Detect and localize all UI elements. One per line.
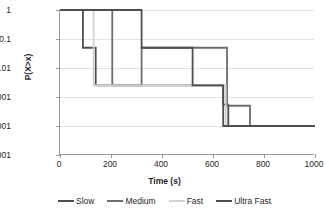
legend-swatch-icon bbox=[216, 200, 232, 203]
x-axis-tick-label: 800 bbox=[243, 160, 283, 169]
legend-item-medium[interactable]: Medium bbox=[107, 196, 155, 206]
legend-swatch-icon bbox=[107, 200, 123, 203]
x-axis-tick-label: 200 bbox=[90, 160, 130, 169]
y-axis-tick-label: 0.0001 bbox=[0, 122, 11, 131]
y-axis-tick-label: 0.1 bbox=[0, 35, 11, 44]
series-line-fast bbox=[60, 10, 315, 126]
y-axis-title: P(X>x) bbox=[23, 37, 33, 97]
y-axis-tick-label: 0.01 bbox=[0, 64, 11, 73]
legend-item-fast[interactable]: Fast bbox=[169, 196, 204, 206]
series-line-ultra-fast bbox=[60, 10, 315, 126]
legend-swatch-icon bbox=[58, 200, 74, 203]
chart-legend: SlowMediumFastUltra Fast bbox=[0, 196, 329, 206]
legend-label: Fast bbox=[187, 196, 204, 206]
x-axis-tick-label: 1000 bbox=[294, 160, 329, 169]
y-axis-tick-label: 0.00001 bbox=[0, 151, 11, 160]
x-axis-tick-label: 400 bbox=[141, 160, 181, 169]
x-axis-tick-label: 600 bbox=[192, 160, 232, 169]
legend-label: Medium bbox=[125, 196, 155, 206]
plot-area bbox=[59, 10, 314, 155]
legend-item-ultra-fast[interactable]: Ultra Fast bbox=[216, 196, 271, 206]
series-line-medium bbox=[60, 10, 315, 126]
x-axis-title: Time (s) bbox=[0, 176, 329, 186]
legend-label: Ultra Fast bbox=[234, 196, 271, 206]
series-line-slow bbox=[60, 10, 315, 126]
legend-label: Slow bbox=[76, 196, 94, 206]
x-axis-tick bbox=[315, 154, 316, 158]
y-axis-tick-label: 0.001 bbox=[0, 93, 11, 102]
chart-container: 10.10.010.0010.00010.00001 0200400600800… bbox=[0, 0, 329, 219]
series-lines bbox=[60, 10, 315, 155]
x-axis-tick-label: 0 bbox=[39, 160, 79, 169]
legend-swatch-icon bbox=[169, 200, 185, 203]
legend-item-slow[interactable]: Slow bbox=[58, 196, 94, 206]
y-axis-tick-label: 1 bbox=[6, 6, 11, 15]
